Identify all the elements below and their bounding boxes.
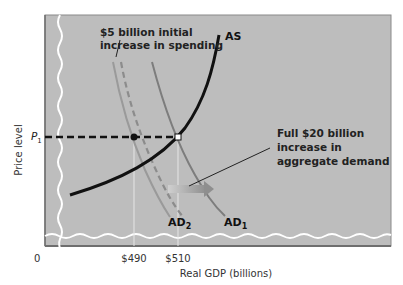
annotation-initial-line2: increase in spending	[100, 39, 223, 51]
annotation-full-line3: aggregate demand	[277, 155, 389, 167]
equilibrium-square-510	[175, 134, 181, 140]
annotation-full-line1: Full $20 billion	[277, 127, 364, 139]
p1-label: P1	[31, 130, 42, 145]
equilibrium-dot-490	[131, 134, 138, 141]
x-tick-490: $490	[121, 253, 146, 264]
shift-arrow-body	[168, 185, 206, 193]
ad-multiplier-chart: $5 billion initial increase in spending …	[0, 0, 403, 285]
x-tick-510: $510	[165, 253, 190, 264]
annotation-full-line2: increase in	[277, 141, 342, 153]
x-tick-0: 0	[34, 253, 40, 264]
y-axis-title: Price level	[13, 124, 24, 175]
annotation-initial-line1: $5 billion initial	[100, 26, 193, 38]
x-axis-title: Real GDP (billions)	[180, 268, 272, 279]
as-label: AS	[225, 30, 242, 43]
